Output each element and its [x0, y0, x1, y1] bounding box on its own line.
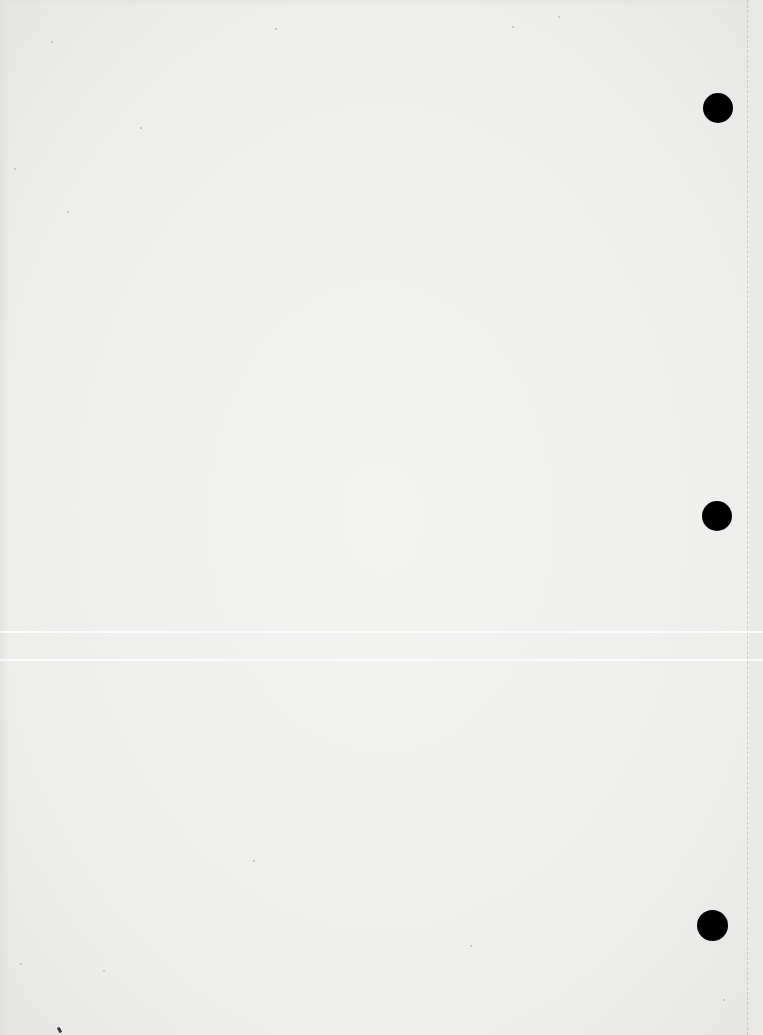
dust-speck [470, 945, 472, 947]
dust-speck [57, 1027, 63, 1034]
dust-speck [103, 970, 105, 972]
scanned-page [0, 0, 763, 1035]
dust-speck [20, 963, 22, 965]
dust-speck [253, 860, 255, 862]
dust-speck [51, 41, 53, 43]
dust-speck [67, 211, 69, 213]
dust-speck [140, 127, 142, 129]
dust-speck [14, 168, 16, 170]
top-edge-shadow [0, 0, 763, 6]
perforation-line [747, 0, 748, 1035]
punch-hole-bottom [697, 910, 728, 941]
dust-speck [723, 999, 725, 1001]
scan-artifact-band [0, 631, 763, 633]
left-edge-shadow [0, 0, 10, 1035]
dust-speck [275, 28, 277, 30]
dust-speck [558, 16, 560, 18]
punch-hole-top [703, 93, 733, 123]
punch-hole-middle [702, 501, 732, 531]
dust-speck [512, 26, 514, 28]
right-edge-strip [749, 0, 763, 1035]
scan-artifact-band [0, 659, 763, 661]
